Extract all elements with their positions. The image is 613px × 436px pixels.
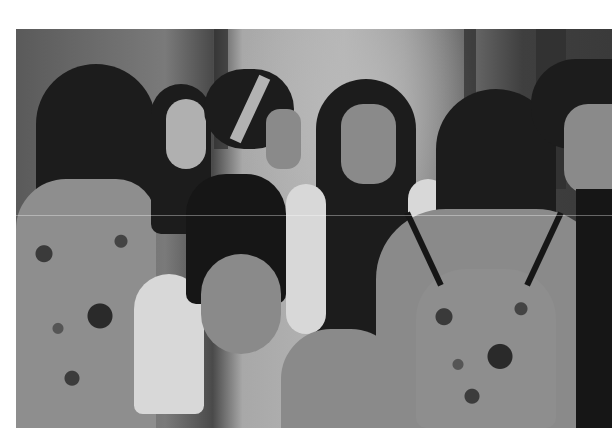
person-far-right-body: [576, 189, 612, 428]
person-center-left-arm: [201, 254, 281, 354]
scan-line-artifact: [16, 215, 612, 216]
backpack: [416, 269, 556, 428]
person-left-face: [166, 99, 206, 169]
person-far-right-face: [564, 104, 612, 194]
person-center-shirt: [286, 184, 326, 334]
group-photo: [16, 29, 612, 428]
person-center-face: [341, 104, 396, 184]
person-center-left-face: [266, 109, 301, 169]
